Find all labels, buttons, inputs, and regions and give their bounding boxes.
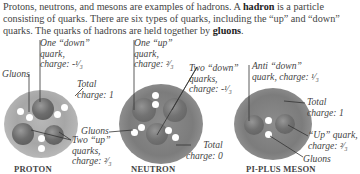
label-line: One “up” bbox=[134, 38, 174, 49]
neutron-up-quark-label: One “up” quark, charge: ²⁄₃ bbox=[134, 38, 174, 70]
gluon bbox=[17, 108, 24, 115]
term-gluons: gluons bbox=[213, 25, 241, 36]
gluon bbox=[265, 131, 272, 138]
meson-anti-down-quark-label: Anti “down” quark, charge: ¹⁄₃ bbox=[252, 61, 319, 82]
up-quark bbox=[44, 125, 64, 145]
label-line: Total bbox=[307, 97, 344, 108]
label-line: charge: -¹⁄₃ bbox=[40, 59, 90, 70]
gluon bbox=[54, 111, 61, 118]
down-quark bbox=[146, 123, 168, 145]
label-line: “Up” quark, bbox=[308, 130, 358, 141]
label-line: charge: ²⁄₃ bbox=[308, 141, 358, 152]
meson-caption: PI-PLUS MESON bbox=[246, 164, 316, 174]
anti-down-quark bbox=[244, 115, 264, 135]
label-line: charge: 1 bbox=[307, 108, 344, 119]
label-line: Two “up” bbox=[72, 135, 112, 146]
proton-gluons-label: Gluons bbox=[2, 69, 30, 80]
label-line: charge: 0 bbox=[186, 151, 223, 162]
label-line: Anti “down” bbox=[252, 61, 319, 72]
label-line: Total bbox=[186, 140, 223, 151]
gluon bbox=[38, 145, 45, 152]
intro-paragraph: Protons, neutrons, and mesons are exampl… bbox=[3, 1, 359, 37]
label-line: quark, charge: ¹⁄₃ bbox=[252, 72, 319, 83]
proton-down-quark-label: One “down” quark, charge: -¹⁄₃ bbox=[40, 38, 90, 70]
gluon bbox=[131, 129, 138, 136]
label-line: charge: ²⁄₃ bbox=[72, 156, 112, 167]
proton-total-charge-label: Total charge: 1 bbox=[77, 79, 114, 100]
label-line: charge: 1 bbox=[77, 90, 114, 101]
meson-up-quark-label: “Up” quark, charge: ²⁄₃ bbox=[308, 130, 358, 151]
gluon bbox=[152, 92, 159, 99]
intro-text: Protons, neutrons, and mesons are exampl… bbox=[3, 1, 243, 12]
up-quark bbox=[275, 114, 295, 134]
label-line: Two “down” bbox=[189, 63, 239, 74]
down-quark bbox=[32, 98, 54, 120]
neutron-caption: NEUTRON bbox=[131, 164, 175, 174]
neutron-down-quarks-label: Two “down” quarks, charge: -¹⁄₃ bbox=[189, 63, 239, 95]
label-line: One “down” bbox=[40, 38, 90, 49]
term-hadron: hadron bbox=[243, 1, 275, 12]
gluon bbox=[61, 104, 68, 111]
neutron-gluons-label: Gluons bbox=[81, 126, 109, 137]
down-quark bbox=[163, 98, 187, 122]
gluon bbox=[265, 117, 272, 124]
label-line: charge: -¹⁄₃ bbox=[189, 84, 239, 95]
proton-up-quarks-label: Two “up” quarks, charge: ²⁄₃ bbox=[72, 135, 112, 167]
intro-text: . bbox=[241, 25, 244, 36]
gluon bbox=[26, 114, 33, 121]
gluon bbox=[152, 101, 159, 108]
label-line: charge: ²⁄₃ bbox=[134, 59, 174, 70]
label-line: Total bbox=[77, 79, 114, 90]
proton-caption: PROTON bbox=[14, 164, 52, 174]
up-quark bbox=[12, 123, 34, 145]
neutron-total-charge-label: Total charge: 0 bbox=[186, 140, 223, 161]
meson-total-charge-label: Total charge: 1 bbox=[307, 97, 344, 118]
meson-gluons-label: Gluons bbox=[303, 154, 331, 165]
gluon bbox=[38, 135, 45, 142]
gluon bbox=[172, 134, 179, 141]
gluon bbox=[138, 124, 145, 131]
gluon bbox=[165, 127, 172, 134]
